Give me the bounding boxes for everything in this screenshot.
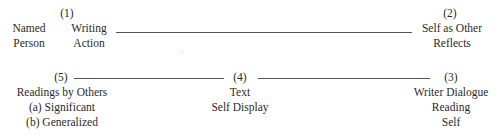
node-2-label-line: Reflects	[412, 36, 492, 51]
stray-mark	[182, 51, 183, 52]
node-1-label-line: Named	[6, 21, 52, 36]
node-3-number: (3)	[436, 70, 466, 85]
node-2-label-line: Self as Other	[412, 21, 492, 36]
node-1-number: (1)	[52, 6, 82, 21]
node-1-named-person: Named Person	[6, 21, 52, 51]
node-3-writer-dialogue: Writer Dialogue Reading Self	[406, 85, 496, 130]
node-3-label-line: Reading	[406, 100, 496, 115]
connector-4-to-3	[258, 78, 430, 79]
node-4-number: (4)	[226, 70, 254, 85]
node-4-label-line: Self Display	[200, 100, 280, 115]
node-1-label-line: Writing	[66, 21, 112, 36]
connector-5-to-4	[74, 78, 224, 79]
connector-1-to-2	[116, 32, 412, 33]
node-2-number: (2)	[430, 6, 470, 21]
node-1-label-line: Action	[66, 36, 112, 51]
node-5-number: (5)	[46, 70, 76, 85]
node-5-readings-by-others: Readings by Others (a) Significant (b) G…	[6, 85, 118, 130]
node-1-writing-action: Writing Action	[66, 21, 112, 51]
node-2-self-as-other: Self as Other Reflects	[412, 21, 492, 51]
node-5-label-line: Readings by Others	[6, 85, 118, 100]
node-3-label-line: Self	[406, 115, 496, 130]
node-1-label-line: Person	[6, 36, 52, 51]
node-3-label-line: Writer Dialogue	[406, 85, 496, 100]
node-5-label-line: (b) Generalized	[6, 115, 118, 130]
node-5-label-line: (a) Significant	[6, 100, 118, 115]
node-4-label-line: Text	[200, 85, 280, 100]
node-4-text-self-display: Text Self Display	[200, 85, 280, 115]
